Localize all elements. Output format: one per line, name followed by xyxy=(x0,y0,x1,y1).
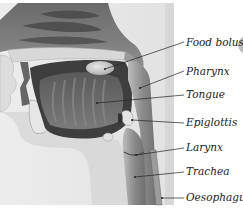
label-epiglottis: Epiglottis xyxy=(186,117,237,128)
hyoid-bone xyxy=(103,133,113,141)
food-bolus xyxy=(86,61,114,75)
label-food-bolus: Food bolus xyxy=(186,37,243,48)
label-oesophagus: Oesophagus xyxy=(186,192,243,203)
label-larynx: Larynx xyxy=(186,142,223,153)
label-pharynx: Pharynx xyxy=(186,66,230,77)
swallowing-anatomy-diagram xyxy=(0,0,243,214)
label-tongue: Tongue xyxy=(186,89,225,100)
label-trachea: Trachea xyxy=(186,166,229,177)
